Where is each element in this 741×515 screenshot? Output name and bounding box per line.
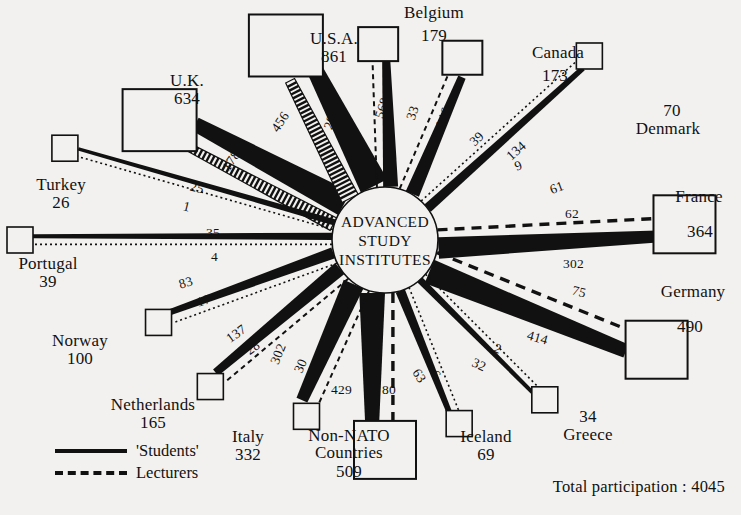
students-flow-belgium bbox=[382, 62, 398, 187]
node-value-italy: 332 bbox=[220, 446, 276, 464]
node-value-uk: 634 bbox=[152, 90, 222, 108]
flow-label-portugal-lecturers: 4 bbox=[211, 249, 218, 265]
node-value-portugal: 39 bbox=[20, 273, 76, 291]
node-value-turkey: 26 bbox=[33, 194, 89, 212]
country-box-norway bbox=[146, 309, 172, 335]
node-label-uk: U.K. 634 bbox=[152, 72, 222, 109]
node-name-netherlands: Netherlands bbox=[96, 396, 210, 414]
node-name-denmark: Denmark bbox=[618, 120, 718, 138]
node-name-nonnato-2: Countries bbox=[303, 444, 395, 462]
node-value-germany: 490 bbox=[662, 318, 718, 336]
legend-label-lecturers: Lecturers bbox=[136, 463, 198, 483]
node-value-norway: 100 bbox=[52, 350, 108, 368]
hub-line-3: INSTITUTES bbox=[339, 251, 431, 268]
total-participation: Total participation : 4045 bbox=[553, 477, 725, 497]
node-name-uk: U.K. bbox=[152, 72, 222, 90]
dashed-line-icon bbox=[55, 471, 127, 475]
flow-label-france-students: 302 bbox=[563, 256, 584, 272]
lecturers-flow-iceland bbox=[409, 287, 458, 409]
node-name-germany: Germany bbox=[650, 283, 736, 301]
country-box-portugal bbox=[7, 227, 33, 253]
country-box-turkey bbox=[52, 135, 78, 161]
node-name-italy: Italy bbox=[220, 428, 276, 446]
hub-line-1: ADVANCED bbox=[341, 213, 429, 230]
country-box-canada bbox=[442, 41, 482, 75]
legend-row-students: 'Students' bbox=[55, 440, 199, 462]
hub-line-2: STUDY bbox=[358, 232, 412, 249]
students-flow-france bbox=[438, 231, 658, 259]
students-flow-portugal bbox=[33, 233, 332, 240]
node-value-usa: 861 bbox=[295, 48, 373, 66]
node-value-belgium: 179 bbox=[406, 27, 462, 45]
legend: 'Students' Lecturers bbox=[55, 440, 199, 484]
country-box-greece bbox=[532, 387, 558, 413]
students-flow-non-nato-countries bbox=[359, 293, 385, 422]
node-name-turkey: Turkey bbox=[22, 176, 100, 194]
node-name-usa: U.S.A. bbox=[295, 30, 373, 48]
node-value-nonnato: 509 bbox=[321, 463, 377, 481]
node-name-portugal: Portugal bbox=[4, 255, 92, 273]
node-value-netherlands: 165 bbox=[125, 414, 181, 432]
flow-label-portugal-students: 35 bbox=[206, 225, 220, 241]
node-name-norway: Norway bbox=[40, 332, 120, 350]
legend-row-lecturers: Lecturers bbox=[55, 462, 199, 484]
flow-label-nonnato-lecturers: 80 bbox=[382, 382, 396, 398]
node-value-france: 364 bbox=[672, 223, 728, 241]
node-value-greece: 34 bbox=[560, 408, 616, 426]
node-name-canada: Canada bbox=[519, 44, 597, 62]
node-value-denmark: 70 bbox=[630, 102, 714, 120]
node-name-iceland: Iceland bbox=[448, 428, 524, 446]
node-name-belgium: Belgium bbox=[396, 4, 472, 22]
flow-label-france-lecturers: 62 bbox=[565, 206, 579, 222]
lecturers-flow-france bbox=[438, 218, 657, 229]
node-name-greece: Greece bbox=[546, 426, 630, 444]
node-value-iceland: 69 bbox=[458, 446, 514, 464]
node-value-canada: 173 bbox=[527, 67, 583, 85]
flow-label-nonnato-students: 429 bbox=[331, 382, 352, 398]
legend-label-students: 'Students' bbox=[136, 441, 199, 461]
node-name-france: France bbox=[663, 188, 735, 206]
node-label-usa: U.S.A. 861 bbox=[295, 30, 373, 67]
diagram-canvas: ADVANCED STUDY INSTITUTES U.K. 634 U.S.A… bbox=[0, 0, 741, 515]
solid-line-icon bbox=[55, 449, 127, 453]
